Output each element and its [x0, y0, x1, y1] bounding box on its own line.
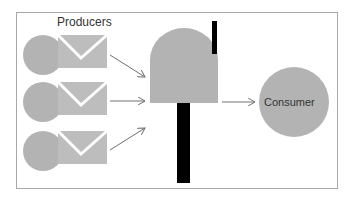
mailbox-body [150, 28, 218, 103]
arrow-producer-1 [110, 55, 145, 77]
mailbox-icon [150, 21, 218, 183]
mailbox-flag [212, 21, 217, 54]
consumer-label: Consumer [264, 96, 315, 108]
producer-2 [23, 82, 107, 122]
producer-circle [23, 131, 63, 171]
arrow-producer-3 [110, 128, 145, 150]
producer-1 [23, 35, 107, 75]
producer-circle [23, 35, 63, 75]
mailbox-post [177, 103, 190, 183]
producer-circle [23, 82, 63, 122]
producer-3 [23, 131, 107, 171]
producers-title: Producers [57, 15, 112, 29]
